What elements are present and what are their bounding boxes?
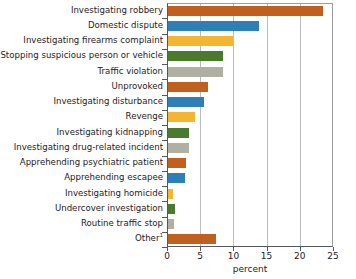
category-label: Investigating disturbance — [53, 97, 163, 106]
category-label: Unprovoked — [111, 82, 163, 91]
category-label: Routine traffic stop — [81, 219, 163, 228]
bar — [168, 158, 186, 168]
bar — [168, 36, 233, 46]
bar — [168, 112, 195, 122]
category-label: Undercover investigation — [55, 204, 163, 213]
category-label: Domestic dispute — [88, 21, 163, 30]
bar — [168, 143, 189, 153]
category-label: Investigating firearms complaint — [23, 36, 163, 45]
bar — [168, 128, 189, 138]
bar-chart: Investigating robberyDomestic disputeInv… — [0, 0, 356, 279]
x-axis-tick-label: 0 — [164, 252, 170, 261]
category-label: Apprehending psychiatric patient — [20, 158, 163, 167]
category-label: Other1 — [135, 234, 163, 243]
y-axis-tick — [162, 186, 167, 187]
footnote-marker: 1 — [159, 233, 163, 239]
category-label: Investigating homicide — [65, 189, 163, 198]
y-axis-tick — [162, 201, 167, 202]
bar — [168, 97, 204, 107]
bar-rows: Investigating robberyDomestic disputeInv… — [0, 3, 356, 247]
bar — [168, 67, 223, 77]
bar — [168, 173, 185, 183]
y-axis-tick — [162, 79, 167, 80]
x-axis-tick-label: 15 — [261, 252, 272, 261]
category-label: Traffic violation — [98, 67, 163, 76]
category-label: Investigating kidnapping — [57, 128, 163, 137]
bar — [168, 219, 174, 229]
category-label: Investigating robbery — [71, 6, 163, 15]
bar — [168, 6, 323, 16]
bar — [168, 82, 208, 92]
bar — [168, 189, 173, 199]
category-label: Apprehending escapee — [64, 173, 163, 182]
x-axis-tick-label: 10 — [228, 252, 239, 261]
bar — [168, 204, 175, 214]
category-label: Revenge — [126, 112, 163, 121]
x-axis-tick-label: 5 — [197, 252, 203, 261]
bar — [168, 234, 216, 244]
bar — [168, 51, 223, 61]
x-axis-tick-label: 25 — [327, 252, 338, 261]
bar — [168, 21, 259, 31]
y-axis-tick — [162, 125, 167, 126]
category-label: Investigating drug-related incident — [14, 143, 163, 152]
x-axis-tick-label: 20 — [294, 252, 305, 261]
category-label: Stopping suspicious person or vehicle — [0, 51, 163, 60]
x-axis-title: percent — [167, 265, 333, 274]
y-axis-tick — [162, 18, 167, 19]
y-axis-tick — [162, 140, 167, 141]
y-axis-tick — [162, 64, 167, 65]
